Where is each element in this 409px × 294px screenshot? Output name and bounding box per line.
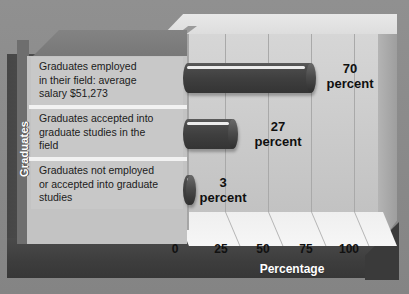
data-label-2: 3 percent xyxy=(192,175,254,205)
category-label-0: Graduates employed in their field: avera… xyxy=(31,57,183,105)
data-label-0: 70 percent xyxy=(319,61,381,91)
category-label-0-line3: salary $51,273 xyxy=(39,87,179,101)
x-tick-50: 50 xyxy=(248,242,278,256)
bar-highlight xyxy=(187,66,305,69)
data-label-1-unit: percent xyxy=(247,134,309,149)
y-axis-title-text: Graduates xyxy=(18,121,30,177)
x-tick-25: 25 xyxy=(206,242,236,256)
bar-end-cap xyxy=(306,63,316,93)
bar-graduates-employed xyxy=(183,63,315,93)
category-label-2-line1: Graduates not employed xyxy=(39,164,179,178)
category-label-1-line1: Graduates accepted into xyxy=(39,112,179,126)
category-label-1-line3: field xyxy=(39,139,179,153)
bar-end-cap xyxy=(228,119,238,149)
category-label-0-line1: Graduates employed xyxy=(39,60,179,74)
category-label-2-line3: studies xyxy=(39,191,179,205)
x-tick-0: 0 xyxy=(160,242,190,256)
x-tick-100: 100 xyxy=(334,242,364,256)
x-axis-title: Percentage xyxy=(197,262,387,276)
category-label-1: Graduates accepted into graduate studies… xyxy=(31,109,183,157)
data-label-0-unit: percent xyxy=(319,76,381,91)
x-tick-75: 75 xyxy=(291,242,321,256)
data-label-1: 27 percent xyxy=(247,119,309,149)
data-label-2-number: 3 xyxy=(192,175,254,190)
plot-floor xyxy=(175,212,397,246)
data-label-1-number: 27 xyxy=(247,119,309,134)
bar-graduate-studies xyxy=(183,119,237,149)
data-label-0-number: 70 xyxy=(319,61,381,76)
category-label-0-line2: in their field: average xyxy=(39,74,179,88)
category-label-2-line2: or accepted into graduate xyxy=(39,178,179,192)
bar-highlight xyxy=(187,122,229,125)
gridline-75 xyxy=(311,34,312,212)
back-wall-top-face xyxy=(162,14,397,36)
chart-3d-body: Graduates Graduates employed in their fi… xyxy=(7,6,397,284)
chart-screenshot: Graduates Graduates employed in their fi… xyxy=(0,0,409,294)
data-label-2-unit: percent xyxy=(192,190,254,205)
category-label-2: Graduates not employed or accepted into … xyxy=(31,161,183,209)
category-label-1-line2: graduate studies in the xyxy=(39,126,179,140)
